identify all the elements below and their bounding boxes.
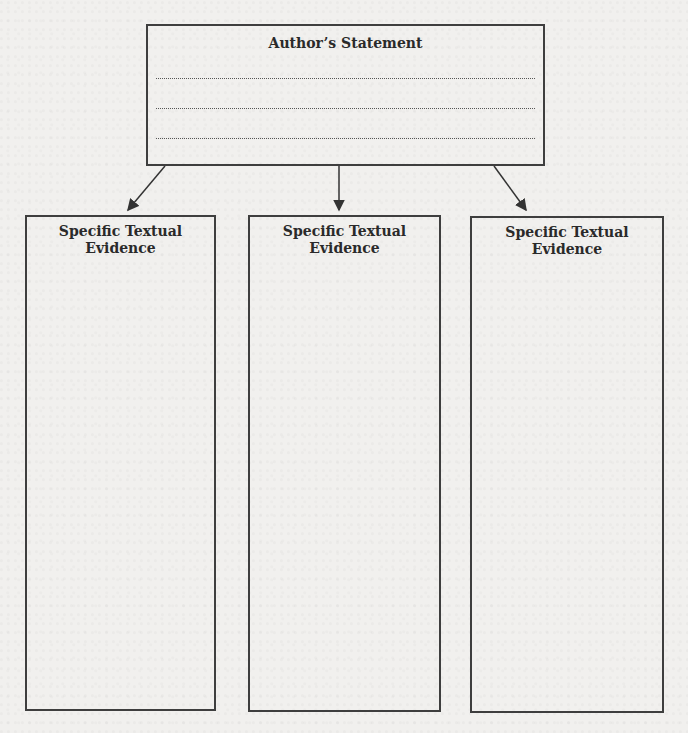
evidence-title-line1: Specific Textual [27, 223, 214, 240]
authors-statement-title: Author’s Statement [148, 35, 543, 52]
evidence-title-line2: Evidence [472, 241, 662, 258]
evidence-title: Specific Textual Evidence [472, 224, 662, 258]
evidence-title-line1: Specific Textual [250, 223, 439, 240]
arrow-left [128, 166, 165, 210]
evidence-title-line2: Evidence [250, 240, 439, 257]
write-line-3[interactable] [156, 138, 535, 139]
evidence-box-1[interactable]: Specific Textual Evidence [25, 215, 216, 711]
arrow-right [494, 166, 526, 210]
evidence-title-line1: Specific Textual [472, 224, 662, 241]
evidence-title: Specific Textual Evidence [27, 223, 214, 257]
evidence-box-3[interactable]: Specific Textual Evidence [470, 216, 664, 713]
authors-statement-box: Author’s Statement [146, 24, 545, 166]
evidence-title: Specific Textual Evidence [250, 223, 439, 257]
evidence-box-2[interactable]: Specific Textual Evidence [248, 215, 441, 712]
write-line-2[interactable] [156, 108, 535, 109]
write-line-1[interactable] [156, 78, 535, 79]
evidence-title-line2: Evidence [27, 240, 214, 257]
